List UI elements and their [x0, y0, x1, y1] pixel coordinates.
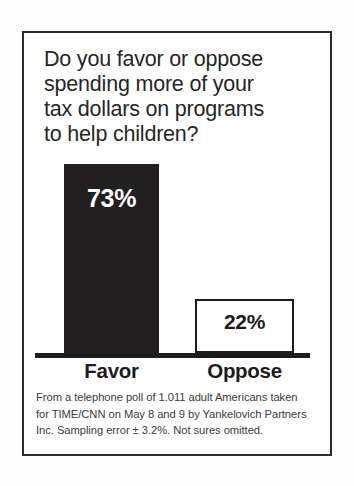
footnote-line-3: Inc. Sampling error ± 3.2%. Not sures om… [36, 422, 317, 439]
poll-graphic: Do you favor or oppose spending more of … [0, 0, 354, 486]
category-label-favor: Favor [64, 359, 159, 383]
source-footnote: From a telephone poll of 1.011 adult Ame… [36, 389, 317, 439]
category-label-oppose: Oppose [195, 359, 294, 383]
bar-favor: 73% [64, 164, 159, 353]
graphic-frame: Do you favor or oppose spending more of … [22, 31, 332, 456]
footnote-line-1: From a telephone poll of 1.011 adult Ame… [36, 389, 317, 406]
axis-baseline [35, 353, 310, 358]
bar-oppose: 22% [195, 299, 294, 353]
bar-value-oppose: 22% [197, 310, 292, 334]
footnote-line-2: for TIME/CNN on May 8 and 9 by Yankelovi… [36, 406, 317, 423]
bar-value-favor: 73% [64, 184, 159, 213]
